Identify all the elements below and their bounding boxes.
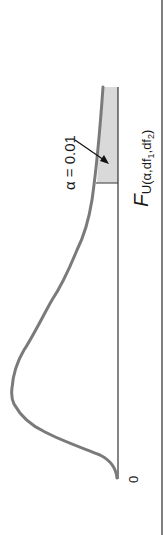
chart-canvas: α = 0.01 FU(α,df1,df2) 0 [0,0,164,535]
f-distribution-figure: α = 0.01 FU(α,df1,df2) 0 [0,0,164,535]
alpha-label: α = 0.01 [61,135,78,190]
x-axis-tick-zero: 0 [126,476,141,483]
critical-value-subscript-c: ) [139,130,154,134]
critical-value-subscript-a: U(α,df [139,158,154,194]
critical-value-label: FU(α,df1,df2) [129,130,156,207]
critical-value-subscript-b: ,df [139,139,154,154]
